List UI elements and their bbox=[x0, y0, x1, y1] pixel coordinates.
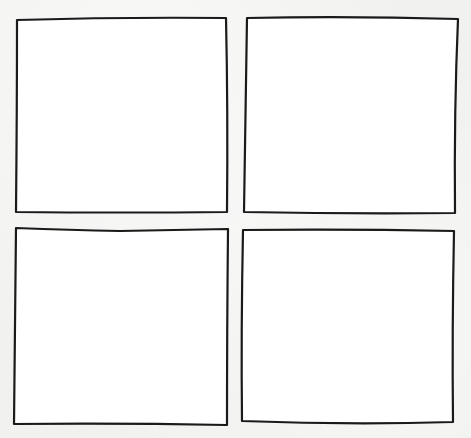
panel-top-left bbox=[16, 18, 227, 213]
panel-top-right bbox=[244, 17, 458, 213]
panel-bottom-left bbox=[14, 228, 228, 425]
panel-bottom-right bbox=[242, 230, 454, 424]
comic-grid bbox=[0, 0, 471, 438]
